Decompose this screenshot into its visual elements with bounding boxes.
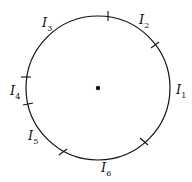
circle-diagram <box>0 0 192 182</box>
label-i3: I3 <box>42 16 52 33</box>
label-i6: I6 <box>101 161 111 178</box>
label-i1: I1 <box>176 83 186 100</box>
label-i4: I4 <box>10 84 20 101</box>
label-i5: I5 <box>28 129 38 146</box>
label-i2: I2 <box>139 13 149 30</box>
center-point <box>96 86 100 90</box>
